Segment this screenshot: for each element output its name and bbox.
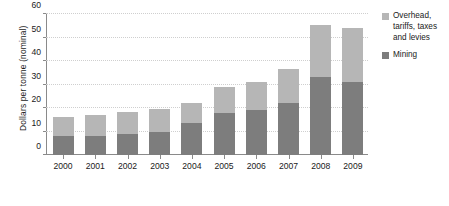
- bar-segment-overhead[interactable]: [149, 109, 170, 131]
- legend-swatch-icon: [382, 52, 389, 59]
- y-tick-label: 10: [31, 119, 41, 128]
- bar-segment-overhead[interactable]: [181, 103, 202, 123]
- bar-segment-mining[interactable]: [53, 136, 74, 155]
- chart-legend: Overhead, tariffs, taxes and leviesMinin…: [382, 11, 449, 68]
- x-tick-mark: [160, 155, 161, 159]
- y-tick-label: 0: [36, 142, 41, 151]
- x-tick-label: 2005: [215, 162, 234, 171]
- bar-segment-mining[interactable]: [278, 103, 299, 155]
- legend-item-label: Overhead, tariffs, taxes and levies: [393, 11, 449, 43]
- x-tick-label: 2000: [54, 162, 73, 171]
- x-tick-mark: [95, 155, 96, 159]
- y-axis-title: Dollars per tonne (nominal): [19, 3, 27, 153]
- bar-segment-overhead[interactable]: [310, 25, 331, 78]
- bar-segment-mining[interactable]: [214, 113, 235, 155]
- bar-segment-mining[interactable]: [181, 123, 202, 155]
- bar-segment-mining[interactable]: [117, 134, 138, 155]
- x-tick-mark: [289, 155, 290, 159]
- bar-segment-overhead[interactable]: [246, 82, 267, 110]
- x-tick-mark: [63, 155, 64, 159]
- bar-segment-overhead[interactable]: [53, 117, 74, 136]
- y-tick-label: 30: [31, 72, 41, 81]
- bar-segment-overhead[interactable]: [85, 115, 106, 136]
- legend-swatch-icon: [382, 13, 389, 20]
- x-tick-mark: [192, 155, 193, 159]
- stacked-bar-chart: Dollars per tonne (nominal) 010203040506…: [0, 0, 449, 206]
- bar-segment-overhead[interactable]: [214, 87, 235, 113]
- x-tick-label: 2004: [182, 162, 201, 171]
- x-tick-mark: [256, 155, 257, 159]
- bar-segment-mining[interactable]: [149, 132, 170, 156]
- x-tick-mark: [128, 155, 129, 159]
- legend-item[interactable]: Overhead, tariffs, taxes and levies: [382, 11, 449, 43]
- bars-layer: [46, 14, 368, 155]
- x-tick-mark: [224, 155, 225, 159]
- x-tick-label: 2006: [247, 162, 266, 171]
- x-tick-mark: [321, 155, 322, 159]
- plot-area: 0102030405060 20002001200220032004200520…: [46, 14, 368, 155]
- legend-item[interactable]: Mining: [382, 50, 449, 61]
- legend-item-label: Mining: [393, 50, 449, 61]
- y-tick-label: 20: [31, 95, 41, 104]
- x-tick-label: 2003: [150, 162, 169, 171]
- x-tick-mark: [353, 155, 354, 159]
- x-tick-label: 2008: [311, 162, 330, 171]
- y-tick-label: 40: [31, 48, 41, 57]
- bar-segment-overhead[interactable]: [342, 28, 363, 82]
- bar-segment-mining[interactable]: [246, 110, 267, 155]
- y-tick-label: 60: [31, 1, 41, 10]
- y-tick-label: 50: [31, 25, 41, 34]
- bar-segment-overhead[interactable]: [278, 69, 299, 103]
- bar-segment-mining[interactable]: [342, 82, 363, 155]
- bar-segment-mining[interactable]: [85, 136, 106, 155]
- x-tick-label: 2002: [118, 162, 137, 171]
- x-tick-label: 2009: [343, 162, 362, 171]
- x-tick-label: 2001: [86, 162, 105, 171]
- bar-segment-overhead[interactable]: [117, 112, 138, 134]
- bar-segment-mining[interactable]: [310, 77, 331, 155]
- x-tick-label: 2007: [279, 162, 298, 171]
